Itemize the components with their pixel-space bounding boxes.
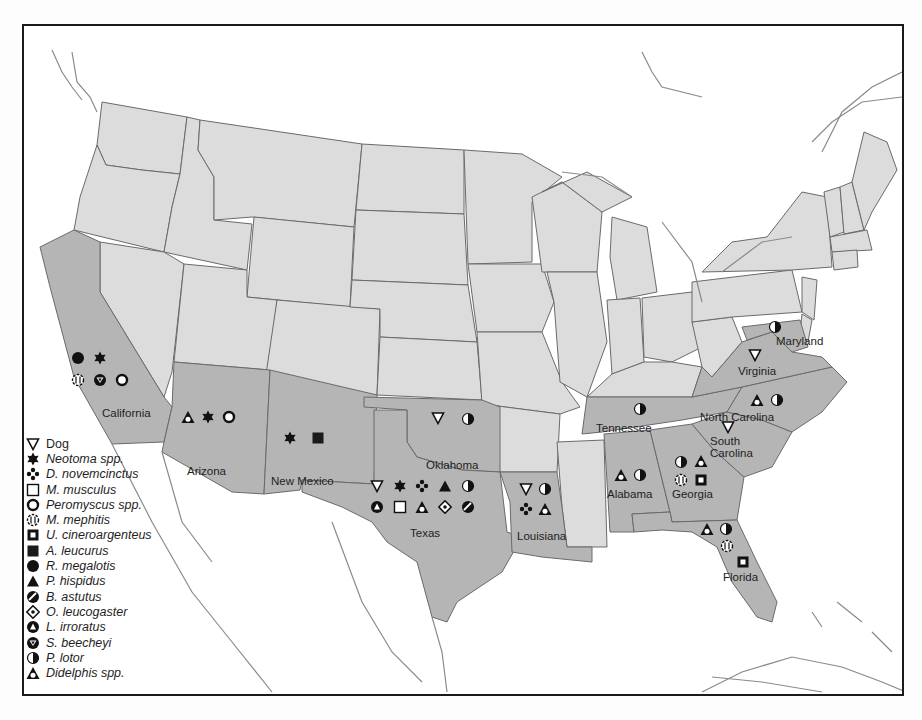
label-north-carolina: North Carolina	[700, 411, 774, 423]
label-texas: Texas	[410, 527, 440, 539]
state-michigan	[610, 217, 657, 300]
legend-item: L. irroratus	[26, 620, 186, 635]
marker-north-carolina-didelphis	[750, 393, 764, 407]
marker-california-m-mephitis	[71, 373, 85, 387]
circle-triangle-down-icon	[26, 636, 40, 650]
marker-texas-m-musculus	[393, 500, 407, 514]
square-ring-icon	[26, 528, 40, 542]
state-kentucky	[587, 362, 702, 397]
marker-arizona-didelphis	[181, 410, 195, 424]
marker-texas-o-leucogaster	[438, 500, 452, 514]
legend-item: D. novemcinctus	[26, 467, 186, 482]
legend-item: S. beecheyi	[26, 635, 186, 650]
legend-item: M. mephitis	[26, 512, 186, 527]
label-oklahoma: Oklahoma	[426, 459, 478, 471]
triangle-down-open-icon	[26, 437, 40, 451]
marker-alabama-p-lotor	[633, 468, 647, 482]
marker-virginia-dog	[748, 348, 762, 362]
marker-texas-l-irroratus	[370, 500, 384, 514]
marker-georgia-didelphis	[694, 454, 708, 468]
legend-item: U. cineroargenteus	[26, 528, 186, 543]
marker-south-carolina-dog	[721, 420, 735, 434]
marker-alabama-didelphis	[614, 468, 628, 482]
square-filled-icon	[26, 544, 40, 558]
marker-texas-p-hispidus	[438, 479, 452, 493]
marker-texas-b-astutus	[461, 500, 475, 514]
map-frame: California Arizona New Mexico Oklahoma T…	[22, 24, 904, 696]
legend-item: Dog	[26, 436, 186, 451]
state-washington	[97, 102, 187, 174]
diamond-dot-icon	[26, 605, 40, 619]
marker-louisiana-didelphis	[538, 502, 552, 516]
triangle-up-ring-icon	[26, 666, 40, 680]
circle-triangle-up-icon	[26, 620, 40, 634]
label-tennessee: Tennessee	[596, 422, 652, 434]
marker-arizona-neotoma	[201, 410, 215, 424]
marker-louisiana-dog	[519, 482, 533, 496]
label-maryland: Maryland	[776, 335, 823, 347]
state-kansas	[377, 337, 482, 400]
marker-new-mexico-a-leucurus	[311, 431, 325, 445]
label-georgia: Georgia	[672, 488, 713, 500]
marker-new-mexico-neotoma	[283, 431, 297, 445]
legend-item: A. leucurus	[26, 543, 186, 558]
marker-texas-neotoma	[393, 479, 407, 493]
legend: Dog Neotoma spp. D. novemcinctus M. musc…	[26, 436, 186, 681]
marker-north-carolina-p-lotor	[770, 393, 784, 407]
marker-california-neotoma	[93, 351, 107, 365]
marker-florida-p-lotor	[719, 522, 733, 536]
circle-ring-icon	[26, 498, 40, 512]
legend-item: M. musculus	[26, 482, 186, 497]
legend-item: R. megalotis	[26, 558, 186, 573]
half-circle-icon	[26, 651, 40, 665]
marker-maryland-p-lotor	[768, 320, 782, 334]
label-south-carolina-line1: South	[710, 435, 740, 447]
marker-georgia-m-mephitis	[674, 473, 688, 487]
legend-item: Neotoma spp.	[26, 451, 186, 466]
legend-item: Didelphis spp.	[26, 665, 186, 680]
label-arizona: Arizona	[187, 465, 226, 477]
marker-florida-u-cineroargenteus	[736, 555, 750, 569]
label-florida: Florida	[723, 571, 758, 583]
four-dots-icon	[26, 467, 40, 481]
circle-filled-icon	[26, 559, 40, 573]
label-alabama: Alabama	[607, 488, 652, 500]
legend-item: O. leucogaster	[26, 604, 186, 619]
label-south-carolina-line2: Carolina	[710, 447, 753, 459]
state-indiana	[607, 298, 644, 374]
square-open-icon	[26, 483, 40, 497]
marker-california-r-megalotis	[71, 351, 85, 365]
state-south-dakota	[352, 210, 468, 285]
state-iowa	[468, 264, 554, 332]
label-california: California	[102, 407, 151, 419]
marker-california-s-beecheyi	[93, 373, 107, 387]
marker-texas-didelphis	[415, 500, 429, 514]
marker-texas-dog	[370, 479, 384, 493]
marker-florida-didelphis	[700, 522, 714, 536]
marker-louisiana-p-lotor	[538, 482, 552, 496]
triangle-up-filled-icon	[26, 574, 40, 588]
marker-georgia-u-cineroargenteus	[694, 473, 708, 487]
legend-item: P. hispidus	[26, 574, 186, 589]
marker-texas-d-novemcinctus	[415, 479, 429, 493]
legend-item: B. astutus	[26, 589, 186, 604]
label-virginia: Virginia	[738, 365, 776, 377]
marker-georgia-p-lotor	[674, 455, 688, 469]
legend-item: Peromyscus spp.	[26, 497, 186, 512]
state-connecticut	[832, 250, 858, 270]
star-6-filled-icon	[26, 452, 40, 466]
marker-florida-m-mephitis	[720, 539, 734, 553]
marker-texas-p-lotor	[461, 479, 475, 493]
state-montana	[198, 120, 362, 227]
dashed-circle-icon	[26, 513, 40, 527]
circle-slash-icon	[26, 590, 40, 604]
marker-oklahoma-dog	[431, 411, 445, 425]
state-wyoming	[247, 217, 354, 307]
marker-louisiana-d-novemcinctus	[519, 502, 533, 516]
marker-california-peromyscus	[115, 373, 129, 387]
label-new-mexico: New Mexico	[271, 475, 334, 487]
legend-item: P. lotor	[26, 650, 186, 665]
label-louisiana: Louisiana	[517, 530, 566, 542]
marker-arizona-peromyscus	[222, 410, 236, 424]
marker-tennessee-p-lotor	[633, 402, 647, 416]
